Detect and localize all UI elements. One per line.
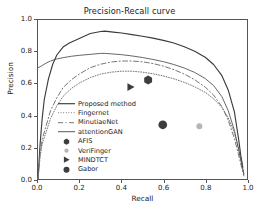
chart-title: Precision-Recall curve bbox=[0, 6, 259, 16]
legend-label: Proposed method bbox=[76, 100, 136, 108]
legend-item-verifinger[interactable]: VeriFinger bbox=[57, 146, 149, 155]
legend-item-afis[interactable]: AFIS bbox=[57, 137, 149, 146]
y-tick-mark bbox=[34, 180, 37, 181]
legend-label: AFIS bbox=[76, 137, 92, 145]
x-axis-title: Recall bbox=[37, 194, 248, 203]
y-tick-mark bbox=[34, 148, 37, 149]
chart-legend: Proposed methodFingernetMinutiaeNetatten… bbox=[57, 99, 149, 174]
x-tick-mark bbox=[37, 180, 38, 183]
x-tick-label: 0.6 bbox=[149, 184, 179, 192]
legend-hexagon-icon bbox=[57, 137, 76, 146]
y-tick-label: 0.0 bbox=[4, 176, 32, 184]
legend-label: Gabor bbox=[76, 165, 98, 173]
legend-dotted-icon bbox=[57, 108, 76, 117]
legend-item-attentiongan[interactable]: attentionGAN bbox=[57, 127, 149, 136]
y-tick-mark bbox=[34, 51, 37, 52]
precision-recall-figure: Precision-Recall curve 0.00.20.40.60.81.… bbox=[0, 0, 259, 206]
x-tick-label: 0.8 bbox=[191, 184, 221, 192]
legend-item-fingernet[interactable]: Fingernet bbox=[57, 108, 149, 117]
legend-label: MINDTCT bbox=[76, 156, 108, 164]
data-point-verifinger bbox=[196, 123, 202, 129]
legend-thin-solid-icon bbox=[57, 127, 76, 136]
data-point-gabor bbox=[158, 120, 167, 129]
legend-solid-icon bbox=[57, 99, 76, 108]
y-axis-title: Precision bbox=[6, 49, 15, 109]
legend-triangle-right-icon bbox=[57, 155, 76, 164]
legend-item-gabor[interactable]: Gabor bbox=[57, 165, 149, 174]
legend-dashed-icon bbox=[57, 118, 76, 127]
x-tick-mark bbox=[164, 180, 165, 183]
legend-item-proposed-method[interactable]: Proposed method bbox=[57, 99, 149, 108]
x-tick-mark bbox=[206, 180, 207, 183]
x-tick-mark bbox=[79, 180, 80, 183]
x-tick-label: 0.0 bbox=[22, 184, 52, 192]
y-tick-mark bbox=[34, 116, 37, 117]
y-tick-mark bbox=[34, 19, 37, 20]
x-tick-label: 0.4 bbox=[106, 184, 136, 192]
legend-label: MinutiaeNet bbox=[76, 118, 118, 126]
x-tick-label: 1.0 bbox=[233, 184, 259, 192]
legend-item-minutiaenet[interactable]: MinutiaeNet bbox=[57, 118, 149, 127]
legend-item-mindtct[interactable]: MINDTCT bbox=[57, 155, 149, 164]
data-point-mindtct bbox=[127, 83, 134, 91]
y-tick-label: 0.4 bbox=[4, 112, 32, 120]
x-tick-mark bbox=[121, 180, 122, 183]
data-point-afis bbox=[144, 75, 152, 84]
legend-circle-icon bbox=[57, 165, 76, 174]
y-tick-label: 0.2 bbox=[4, 144, 32, 152]
legend-label: Fingernet bbox=[76, 109, 109, 117]
legend-label: VeriFinger bbox=[76, 147, 111, 155]
y-tick-mark bbox=[34, 83, 37, 84]
x-tick-label: 0.2 bbox=[64, 184, 94, 192]
legend-circle-light-icon bbox=[57, 146, 76, 155]
legend-label: attentionGAN bbox=[76, 128, 123, 136]
y-tick-label: 1.0 bbox=[4, 15, 32, 23]
x-tick-mark bbox=[248, 180, 249, 183]
